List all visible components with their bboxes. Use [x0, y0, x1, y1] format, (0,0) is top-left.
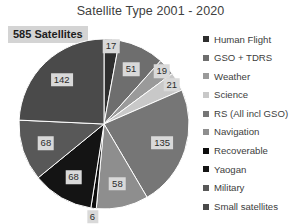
legend-swatch-icon: [203, 111, 209, 117]
pie-slice-label: 51: [123, 62, 140, 76]
pie-slice-label: 21: [163, 78, 180, 92]
legend-item[interactable]: Human Flight: [203, 30, 299, 49]
pie-slice-label: 68: [65, 170, 82, 184]
chart-legend: Human FlightGSO + TDRSWeatherScienceRS (…: [203, 30, 299, 216]
pie-plot-area: 175119211355866868142: [18, 38, 190, 210]
legend-item[interactable]: Weather: [203, 67, 299, 86]
legend-item-label: GSO + TDRS: [214, 53, 272, 63]
legend-item-label: Yaogan: [214, 165, 246, 175]
legend-item[interactable]: GSO + TDRS: [203, 49, 299, 68]
legend-item-label: Small satellites: [214, 202, 278, 212]
legend-item-label: Navigation: [214, 127, 259, 137]
legend-item-label: Recoverable: [214, 146, 268, 156]
legend-item-label: RS (All incl GSO): [214, 109, 288, 119]
legend-item[interactable]: Science: [203, 86, 299, 105]
pie-slice-label: 58: [109, 177, 126, 191]
pie-slice-label: 6: [87, 210, 98, 224]
legend-item-label: Science: [214, 90, 248, 100]
legend-swatch-icon: [203, 185, 209, 191]
pie-slice-label: 17: [103, 39, 120, 53]
legend-item-label: Human Flight: [214, 35, 271, 45]
legend-item[interactable]: Navigation: [203, 123, 299, 142]
legend-swatch-icon: [203, 36, 209, 42]
pie-slice-label: 19: [154, 65, 171, 79]
pie-slice-label: 68: [38, 136, 55, 150]
legend-item-label: Weather: [214, 72, 250, 82]
pie-chart-figure: Satellite Type 2001 - 2020 585 Satellite…: [0, 0, 301, 224]
legend-swatch-icon: [203, 129, 209, 135]
legend-item-label: Military: [214, 183, 244, 193]
legend-item[interactable]: Recoverable: [203, 142, 299, 161]
legend-item[interactable]: Military: [203, 179, 299, 198]
legend-swatch-icon: [203, 55, 209, 61]
legend-swatch-icon: [203, 204, 209, 210]
chart-title: Satellite Type 2001 - 2020: [0, 4, 301, 18]
legend-swatch-icon: [203, 73, 209, 79]
legend-item[interactable]: Small satellites: [203, 197, 299, 216]
pie-slice-label: 142: [51, 73, 73, 87]
legend-swatch-icon: [203, 166, 209, 172]
legend-swatch-icon: [203, 92, 209, 98]
legend-swatch-icon: [203, 148, 209, 154]
pie-slice-label: 135: [151, 136, 173, 150]
legend-item[interactable]: RS (All incl GSO): [203, 104, 299, 123]
legend-item[interactable]: Yaogan: [203, 160, 299, 179]
